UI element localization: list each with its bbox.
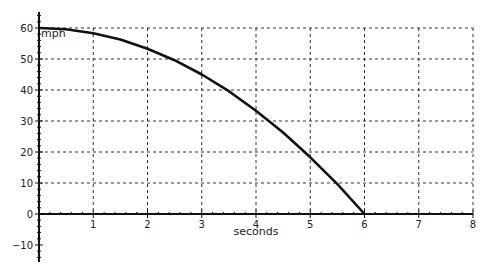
grid-lines: [39, 28, 473, 214]
x-tick-label: 7: [416, 219, 422, 230]
x-tick-label: 2: [144, 219, 150, 230]
tick-labels: 12345678−100102030405060: [12, 23, 476, 251]
y-tick-label: 40: [20, 85, 33, 96]
speed-chart: 12345678−100102030405060 mph seconds: [0, 0, 493, 273]
x-tick-label: 8: [470, 219, 476, 230]
x-tick-label: 5: [307, 219, 313, 230]
y-tick-label: 0: [27, 209, 33, 220]
y-tick-label: 60: [20, 23, 33, 34]
y-tick-label: 50: [20, 54, 33, 65]
x-axis-label: seconds: [234, 225, 279, 238]
y-tick-label: 10: [20, 178, 33, 189]
y-tick-label: −10: [12, 240, 33, 251]
y-tick-label: 30: [20, 116, 33, 127]
x-tick-label: 1: [90, 219, 96, 230]
x-tick-label: 6: [361, 219, 367, 230]
y-tick-label: 20: [20, 147, 33, 158]
x-tick-label: 3: [199, 219, 205, 230]
y-axis-label: mph: [41, 27, 66, 40]
